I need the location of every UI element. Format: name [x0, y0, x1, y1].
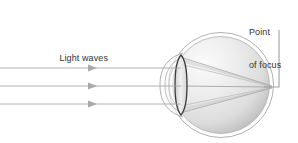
- lens-icon: [175, 55, 187, 115]
- point-of-focus-line-1: Point: [249, 27, 281, 38]
- diagram-canvas: Light waves Point of focus: [0, 0, 298, 143]
- light-waves-text: Light waves: [59, 53, 108, 63]
- point-of-focus-line-2: of focus: [249, 60, 281, 71]
- point-of-focus-label: Point of focus: [249, 5, 281, 93]
- arrowhead-icon: [88, 83, 97, 90]
- light-waves-label: Light waves: [49, 42, 108, 75]
- arrowhead-icon: [88, 101, 97, 108]
